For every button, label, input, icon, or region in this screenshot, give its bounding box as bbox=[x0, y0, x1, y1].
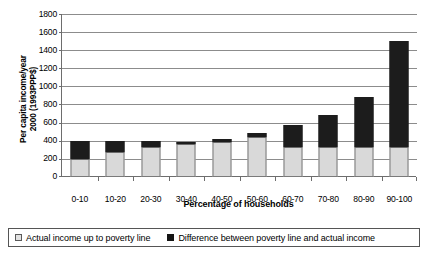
bar-stack[interactable] bbox=[141, 141, 160, 177]
x-tick-mark bbox=[416, 177, 417, 181]
bar-group-60-70[interactable] bbox=[275, 14, 311, 177]
x-tick-mark bbox=[169, 177, 170, 181]
bar-segment-difference[interactable] bbox=[354, 97, 373, 147]
bar-segment-actual-income[interactable] bbox=[248, 137, 267, 177]
x-tick-mark bbox=[382, 177, 383, 181]
x-tick-mark bbox=[204, 177, 205, 181]
bar-stack[interactable] bbox=[354, 97, 373, 177]
y-tick-label: 200 bbox=[17, 154, 57, 163]
bar-segment-difference[interactable] bbox=[283, 125, 302, 148]
x-tick-mark bbox=[240, 177, 241, 181]
bar-segment-actual-income[interactable] bbox=[141, 147, 160, 177]
legend-label-difference: Difference between poverty line and actu… bbox=[178, 233, 375, 243]
bar-segment-actual-income[interactable] bbox=[70, 159, 89, 177]
x-tick-mark bbox=[346, 177, 347, 181]
bar-segment-actual-income[interactable] bbox=[212, 142, 231, 177]
y-tick-label: 600 bbox=[17, 118, 57, 127]
bar-group-90-100[interactable] bbox=[382, 14, 418, 177]
y-tick-label: 400 bbox=[17, 136, 57, 145]
legend-swatch-black-square-icon bbox=[167, 234, 174, 241]
bar-group-20-30[interactable] bbox=[133, 14, 169, 177]
x-tick-mark bbox=[98, 177, 99, 181]
y-tick-label: 1200 bbox=[17, 64, 57, 73]
bar-segment-difference[interactable] bbox=[390, 41, 409, 147]
bar-stack[interactable] bbox=[212, 139, 231, 177]
bar-stack[interactable] bbox=[70, 141, 89, 177]
x-tick-mark bbox=[133, 177, 134, 181]
y-tick-label: 1000 bbox=[17, 82, 57, 91]
bar-stack[interactable] bbox=[177, 142, 196, 177]
bar-segment-difference[interactable] bbox=[106, 141, 125, 152]
y-tick-label: 800 bbox=[17, 100, 57, 109]
bar-group-40-50[interactable] bbox=[204, 14, 240, 177]
y-tick-label: 0 bbox=[17, 172, 57, 181]
y-tick-label: 1400 bbox=[17, 46, 57, 55]
y-tick-label: 1600 bbox=[17, 28, 57, 37]
bar-segment-actual-income[interactable] bbox=[319, 147, 338, 177]
bar-segment-actual-income[interactable] bbox=[106, 152, 125, 177]
y-tick-label: 1800 bbox=[17, 10, 57, 19]
bar-segment-actual-income[interactable] bbox=[390, 147, 409, 177]
bar-segment-difference[interactable] bbox=[70, 141, 89, 159]
bar-group-80-90[interactable] bbox=[346, 14, 382, 177]
bar-stack[interactable] bbox=[390, 41, 409, 177]
x-axis-title: Percentage of households bbox=[61, 199, 416, 209]
bar-chart-figure: Per capita income/year 2000 (1993PPP$) 1… bbox=[0, 0, 431, 257]
bar-group-10-20[interactable] bbox=[98, 14, 134, 177]
legend-swatch-light-gray-square-icon bbox=[15, 234, 22, 241]
bars-layer bbox=[62, 14, 417, 177]
bar-segment-actual-income[interactable] bbox=[177, 144, 196, 177]
x-tick-mark bbox=[275, 177, 276, 181]
bar-stack[interactable] bbox=[319, 115, 338, 177]
bar-group-0-10[interactable] bbox=[62, 14, 98, 177]
bar-group-50-60[interactable] bbox=[240, 14, 276, 177]
bar-group-30-40[interactable] bbox=[169, 14, 205, 177]
legend-label-actual-income: Actual income up to poverty line bbox=[26, 233, 150, 243]
bar-segment-difference[interactable] bbox=[319, 115, 338, 147]
chart-legend: Actual income up to poverty line Differe… bbox=[8, 228, 420, 247]
bar-stack[interactable] bbox=[248, 133, 267, 177]
x-tick-mark bbox=[311, 177, 312, 181]
legend-item-actual-income[interactable]: Actual income up to poverty line bbox=[15, 233, 150, 243]
bar-segment-actual-income[interactable] bbox=[354, 147, 373, 177]
bar-stack[interactable] bbox=[106, 141, 125, 177]
plot-area: 0-10 10-20 20-30 30-40 40-50 50-60 60-70… bbox=[61, 14, 416, 177]
bar-segment-actual-income[interactable] bbox=[283, 147, 302, 177]
bar-group-70-80[interactable] bbox=[311, 14, 347, 177]
bar-stack[interactable] bbox=[283, 125, 302, 178]
legend-item-difference[interactable]: Difference between poverty line and actu… bbox=[167, 233, 375, 243]
